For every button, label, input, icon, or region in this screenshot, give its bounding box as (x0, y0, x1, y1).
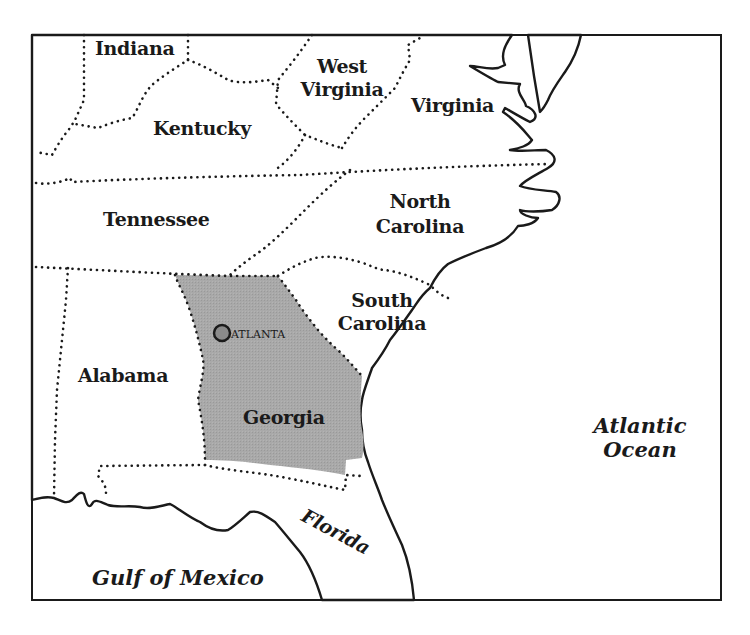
label-atlantic-line1: Atlantic (592, 413, 687, 438)
southeast-us-map: Indiana West Virginia Virginia Kentucky … (0, 0, 750, 635)
label-west-virginia-line1: West (316, 55, 368, 77)
label-virginia: Virginia (410, 94, 494, 116)
city-marker-icon (214, 325, 230, 341)
label-south-carolina-line1: South (351, 289, 413, 311)
label-atlanta: ATLANTA (230, 328, 286, 341)
label-atlantic-line2: Ocean (603, 437, 676, 462)
label-kentucky: Kentucky (153, 117, 252, 139)
city-atlanta: ATLANTA (214, 325, 286, 341)
label-tennessee: Tennessee (103, 208, 210, 230)
label-north-carolina-line2: Carolina (376, 215, 464, 237)
label-north-carolina-line1: North (389, 190, 451, 212)
label-alabama: Alabama (77, 364, 168, 386)
label-gulf-of-mexico: Gulf of Mexico (92, 565, 264, 590)
label-south-carolina-line2: Carolina (338, 312, 426, 334)
label-west-virginia-line2: Virginia (299, 78, 383, 100)
label-georgia: Georgia (243, 406, 325, 428)
label-indiana: Indiana (95, 37, 175, 59)
